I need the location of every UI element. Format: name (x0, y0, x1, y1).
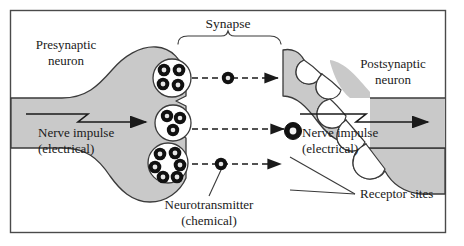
neurotransmitter-bottom (215, 158, 227, 170)
label-synapse: Synapse (206, 16, 251, 31)
synapse-diagram: Synapse Presynaptic neuron Postsynaptic … (0, 0, 464, 246)
label-presynaptic-line2: neuron (48, 53, 85, 68)
label-neurotransmitter-line1: Neurotransmitter (165, 197, 254, 212)
label-neurotransmitter-line2: (chemical) (181, 213, 237, 228)
neurotransmitter-top (222, 72, 234, 84)
label-nerve-impulse-right-line2: (electrical) (302, 141, 358, 156)
label-nerve-impulse-left-line1: Nerve impulse (38, 125, 114, 140)
vesicle-bottom (148, 143, 188, 183)
vesicle-top (153, 59, 191, 97)
label-postsynaptic-line1: Postsynaptic (360, 56, 426, 71)
label-presynaptic-line1: Presynaptic (36, 37, 97, 52)
label-nerve-impulse-left-line2: (electrical) (38, 141, 94, 156)
docked-neurotransmitter (285, 123, 302, 140)
label-receptor-sites: Receptor sites (360, 186, 433, 201)
vesicle-middle (155, 105, 191, 141)
label-nerve-impulse-right-line1: Nerve impulse (302, 125, 378, 140)
label-postsynaptic-line2: neuron (375, 72, 412, 87)
vesicle-membrane (153, 59, 191, 97)
postsynaptic-axon (370, 98, 445, 148)
